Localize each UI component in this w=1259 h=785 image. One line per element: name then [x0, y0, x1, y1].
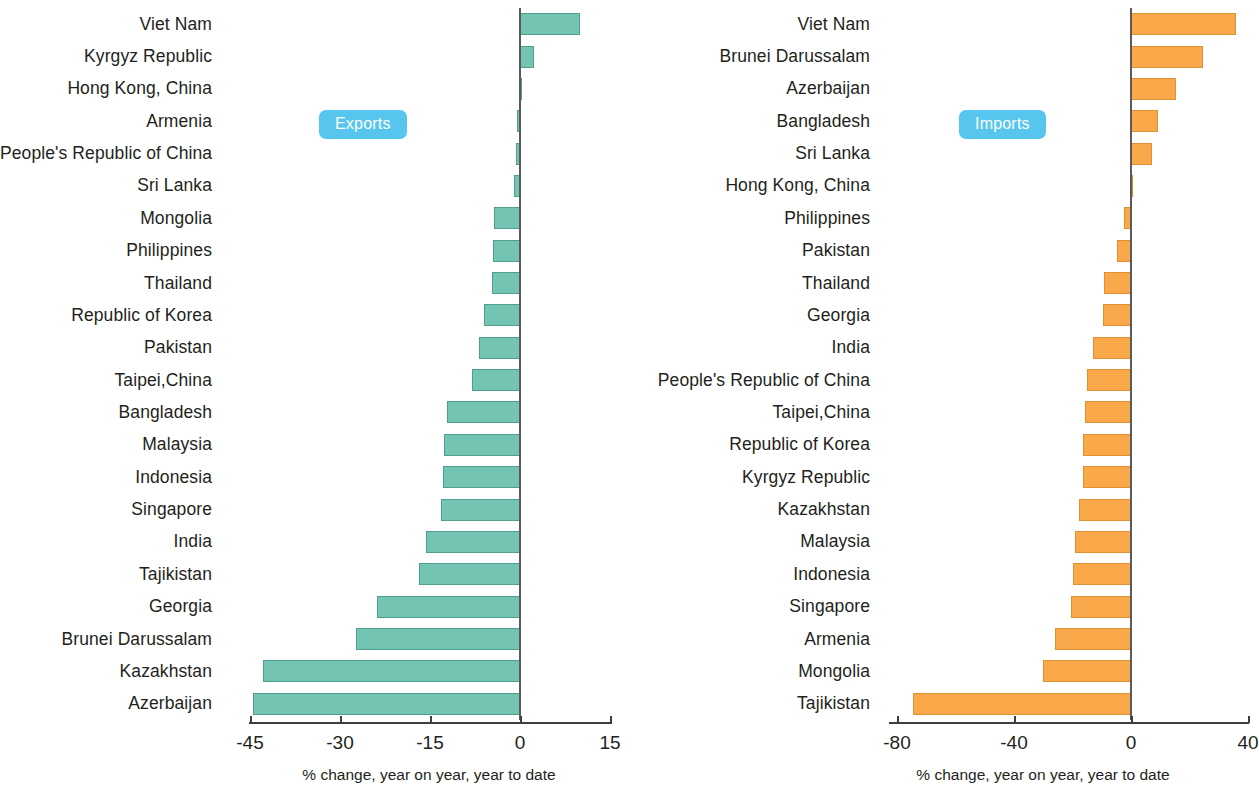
- chart-row: Thailand: [0, 267, 629, 299]
- bar-exports: [472, 369, 520, 391]
- category-label: Malaysia: [0, 434, 212, 455]
- chart-row: Kyrgyz Republic: [630, 461, 1259, 493]
- x-tick: [1131, 716, 1133, 723]
- category-label: Bangladesh: [630, 111, 870, 132]
- chart-row: Viet Nam: [630, 8, 1259, 40]
- chart-row: People's Republic of China: [630, 364, 1259, 396]
- chart-row: Kyrgyz Republic: [0, 40, 629, 72]
- chart-row: People's Republic of China: [0, 137, 629, 169]
- chart-row: Philippines: [0, 235, 629, 267]
- bar-exports: [444, 434, 520, 456]
- bar-exports: [520, 13, 580, 35]
- category-label: Malaysia: [630, 531, 870, 552]
- chart-row: Viet Nam: [0, 8, 629, 40]
- category-label: Taipei,China: [630, 402, 870, 423]
- chart-row: Pakistan: [630, 235, 1259, 267]
- chart-row: Bangladesh: [630, 105, 1259, 137]
- chart-row: Brunei Darussalam: [0, 623, 629, 655]
- category-label: Thailand: [0, 273, 212, 294]
- category-label: People's Republic of China: [0, 143, 212, 164]
- bar-imports: [1131, 13, 1236, 35]
- x-tick: [897, 716, 899, 723]
- category-label: Georgia: [0, 596, 212, 617]
- chart-row: Azerbaijan: [0, 688, 629, 720]
- x-tick-label: -80: [883, 732, 910, 754]
- category-label: Taipei,China: [0, 370, 212, 391]
- x-tick: [430, 716, 432, 723]
- chart-row: India: [630, 332, 1259, 364]
- bar-imports: [1079, 499, 1131, 521]
- chart-row: Indonesia: [0, 461, 629, 493]
- category-label: Pakistan: [0, 337, 212, 358]
- category-label: Republic of Korea: [0, 305, 212, 326]
- chart-row: Kazakhstan: [630, 493, 1259, 525]
- bar-imports: [1043, 660, 1131, 682]
- bar-imports: [1104, 272, 1131, 294]
- category-label: Viet Nam: [0, 14, 212, 35]
- chart-row: Malaysia: [630, 526, 1259, 558]
- imports-plot: Viet NamBrunei DarussalamAzerbaijanBangl…: [630, 8, 1259, 720]
- category-label: Mongolia: [0, 208, 212, 229]
- category-label: Kyrgyz Republic: [630, 467, 870, 488]
- chart-row: Malaysia: [0, 429, 629, 461]
- imports-axis-line: [889, 722, 1249, 724]
- bar-imports: [1083, 434, 1131, 456]
- category-label: Indonesia: [630, 564, 870, 585]
- category-label: Pakistan: [630, 240, 870, 261]
- bar-exports: [494, 207, 520, 229]
- exports-plot: Viet NamKyrgyz RepublicHong Kong, ChinaA…: [0, 8, 629, 720]
- chart-row: Singapore: [0, 493, 629, 525]
- x-tick-label: -15: [416, 732, 443, 754]
- category-label: Hong Kong, China: [0, 78, 212, 99]
- x-tick-label: 0: [515, 732, 526, 754]
- bar-exports: [447, 401, 520, 423]
- category-label: Viet Nam: [630, 14, 870, 35]
- x-tick: [610, 716, 612, 723]
- x-tick-label: 15: [599, 732, 620, 754]
- x-tick-label: 0: [1126, 732, 1137, 754]
- x-tick-label: -40: [1000, 732, 1027, 754]
- chart-row: Pakistan: [0, 332, 629, 364]
- x-tick-label: 40: [1237, 732, 1258, 754]
- category-label: Mongolia: [630, 661, 870, 682]
- chart-row: Azerbaijan: [630, 73, 1259, 105]
- category-label: People's Republic of China: [630, 370, 870, 391]
- chart-row: Armenia: [630, 623, 1259, 655]
- bar-exports: [377, 596, 520, 618]
- bar-imports: [1087, 369, 1131, 391]
- category-label: Kazakhstan: [0, 661, 212, 682]
- imports-zero-line: [1130, 8, 1132, 720]
- bar-exports: [253, 693, 520, 715]
- x-tick: [340, 716, 342, 723]
- chart-row: Georgia: [0, 590, 629, 622]
- category-label: Azerbaijan: [630, 78, 870, 99]
- chart-row: Sri Lanka: [0, 170, 629, 202]
- chart-row: Republic of Korea: [630, 429, 1259, 461]
- category-label: Philippines: [0, 240, 212, 261]
- category-label: Tajikistan: [630, 693, 870, 714]
- chart-row: Brunei Darussalam: [630, 40, 1259, 72]
- bar-imports: [1131, 78, 1176, 100]
- category-label: Kyrgyz Republic: [0, 46, 212, 67]
- category-label: Thailand: [630, 273, 870, 294]
- chart-row: Hong Kong, China: [0, 73, 629, 105]
- chart-row: Philippines: [630, 202, 1259, 234]
- exports-panel: Viet NamKyrgyz RepublicHong Kong, ChinaA…: [0, 0, 629, 785]
- category-label: India: [630, 337, 870, 358]
- category-label: Kazakhstan: [630, 499, 870, 520]
- category-label: Armenia: [630, 629, 870, 650]
- category-label: Hong Kong, China: [630, 175, 870, 196]
- imports-panel: Viet NamBrunei DarussalamAzerbaijanBangl…: [630, 0, 1259, 785]
- chart-row: Indonesia: [630, 558, 1259, 590]
- bar-imports: [1117, 240, 1131, 262]
- bar-exports: [356, 628, 520, 650]
- chart-row: Georgia: [630, 299, 1259, 331]
- bar-imports: [1103, 304, 1131, 326]
- category-label: Sri Lanka: [0, 175, 212, 196]
- category-label: Armenia: [0, 111, 212, 132]
- category-label: Philippines: [630, 208, 870, 229]
- category-label: Tajikistan: [0, 564, 212, 585]
- chart-row: Mongolia: [630, 655, 1259, 687]
- bar-imports: [1083, 466, 1131, 488]
- x-tick: [520, 716, 522, 723]
